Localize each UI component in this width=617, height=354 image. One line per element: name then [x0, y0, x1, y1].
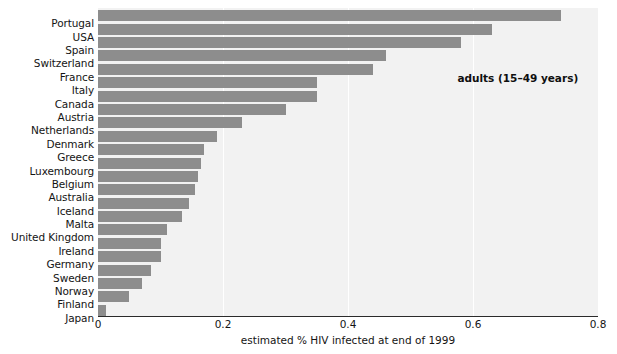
bar-row: [98, 104, 598, 115]
bar-row: [98, 198, 598, 209]
bar-greece: [98, 144, 204, 155]
bar-row: [98, 211, 598, 222]
bar-row: [98, 158, 598, 169]
category-label-spain: Spain: [0, 45, 94, 56]
bar-belgium: [98, 171, 198, 182]
bar-row: [98, 251, 598, 262]
bar-row: [98, 171, 598, 182]
category-label-united-kingdom: United Kingdom: [0, 232, 94, 243]
category-label-usa: USA: [0, 32, 94, 43]
x-axis-tick-labels: 00.20.40.60.8: [0, 318, 617, 334]
plot-area: adults (15–49 years): [98, 8, 598, 317]
category-label-italy: Italy: [0, 85, 94, 96]
bar-portugal: [98, 10, 561, 21]
bar-row: [98, 278, 598, 289]
x-axis-title: estimated % HIV infected at end of 1999: [98, 334, 598, 346]
category-label-netherlands: Netherlands: [0, 125, 94, 136]
bar-malta: [98, 211, 182, 222]
category-label-canada: Canada: [0, 99, 94, 110]
category-label-france: France: [0, 72, 94, 83]
x-tick-0.8: 0.8: [590, 318, 607, 331]
x-tick-0.2: 0.2: [215, 318, 232, 331]
bar-france: [98, 64, 373, 75]
category-label-austria: Austria: [0, 112, 94, 123]
bar-row: [98, 184, 598, 195]
category-label-portugal: Portugal: [0, 18, 94, 29]
bar-sweden: [98, 265, 151, 276]
category-label-switzerland: Switzerland: [0, 58, 94, 69]
category-label-iceland: Iceland: [0, 206, 94, 217]
bar-usa: [98, 24, 492, 35]
x-tick-0.6: 0.6: [465, 318, 482, 331]
bar-netherlands: [98, 117, 242, 128]
bar-united-kingdom: [98, 224, 167, 235]
bar-row: [98, 224, 598, 235]
category-label-ireland: Ireland: [0, 246, 94, 257]
category-axis-labels: PortugalUSASpainSwitzerlandFranceItalyCa…: [0, 8, 94, 316]
x-tick-0: 0: [95, 318, 102, 331]
bar-row: [98, 37, 598, 48]
bar-row: [98, 131, 598, 142]
bar-row: [98, 305, 598, 316]
category-label-malta: Malta: [0, 219, 94, 230]
bar-row: [98, 24, 598, 35]
bar-row: [98, 265, 598, 276]
bar-austria: [98, 104, 286, 115]
category-label-luxembourg: Luxembourg: [0, 166, 94, 177]
bar-italy: [98, 77, 317, 88]
hiv-prevalence-bar-chart: PortugalUSASpainSwitzerlandFranceItalyCa…: [0, 0, 617, 354]
bar-iceland: [98, 198, 189, 209]
category-label-greece: Greece: [0, 152, 94, 163]
bar-luxembourg: [98, 158, 201, 169]
bar-spain: [98, 37, 461, 48]
category-label-belgium: Belgium: [0, 179, 94, 190]
bar-row: [98, 117, 598, 128]
x-tick-0.4: 0.4: [340, 318, 357, 331]
bar-row: [98, 238, 598, 249]
category-label-sweden: Sweden: [0, 273, 94, 284]
category-label-norway: Norway: [0, 286, 94, 297]
category-label-finland: Finland: [0, 299, 94, 310]
bar-ireland: [98, 238, 161, 249]
bar-row: [98, 10, 598, 21]
category-label-australia: Australia: [0, 192, 94, 203]
category-label-denmark: Denmark: [0, 139, 94, 150]
bar-norway: [98, 278, 142, 289]
annotation-adults-label: adults (15–49 years): [457, 72, 578, 84]
bar-denmark: [98, 131, 217, 142]
bar-japan: [98, 305, 106, 316]
bar-series: [98, 8, 598, 316]
bar-canada: [98, 91, 317, 102]
bar-australia: [98, 184, 195, 195]
bar-row: [98, 50, 598, 61]
bar-row: [98, 291, 598, 302]
bar-row: [98, 144, 598, 155]
category-label-germany: Germany: [0, 259, 94, 270]
bar-finland: [98, 291, 129, 302]
bar-switzerland: [98, 50, 386, 61]
bar-germany: [98, 251, 161, 262]
bar-row: [98, 91, 598, 102]
